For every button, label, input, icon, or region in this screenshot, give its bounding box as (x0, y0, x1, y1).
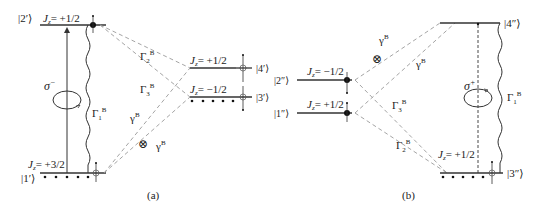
decay-wavy-line (498, 23, 502, 173)
gammaB-label-upper: γB (378, 33, 389, 46)
population-dots (442, 176, 485, 179)
ket-1pp: |1″⟩ (274, 108, 289, 119)
gammaB-label-lower: γB (415, 57, 426, 70)
jz-label: Jz= −1/2 (307, 65, 344, 79)
spin-dot (346, 92, 348, 94)
gammaB-label-lower: γB (155, 139, 166, 152)
spin-dot (95, 162, 97, 164)
spin-dot (92, 15, 94, 17)
spin-dot (242, 54, 244, 56)
ket-4pp: |4″⟩ (504, 17, 521, 29)
gamma2-label: Γ2B (140, 49, 155, 65)
sigma-plus-label: σ+ (464, 78, 475, 93)
caption-b: (b) (402, 189, 415, 202)
panel-a: |2′⟩ Jz= +1/2 |1′⟩ Jz= +3/2 Jz= +1/2 |4′… (18, 12, 269, 202)
decay-wavy-line (86, 25, 90, 173)
jz-label: Jz= −1/2 (190, 83, 227, 97)
cross-icon: ⊗ (138, 137, 148, 151)
spin-dot (346, 102, 348, 104)
gamma1-label: Γ1B (92, 106, 107, 122)
sigma-minus-label: σ− (44, 78, 55, 93)
gamma2-label: Γ2B (396, 138, 411, 154)
jz-label: Jz= +1/2 (43, 12, 80, 26)
jz-label: Jz= +1/2 (190, 54, 227, 68)
jz-label: Jz= +1/2 (307, 98, 344, 112)
spin-dot (242, 109, 244, 111)
caption-a: (a) (147, 189, 160, 202)
population-dots (191, 100, 235, 103)
ket-3pp: |3″⟩ (507, 167, 524, 179)
gamma3-label: Γ3B (392, 98, 407, 114)
arrow-tip (477, 23, 479, 25)
gamma3-label: Γ3B (140, 82, 155, 98)
jz-label: Jz= +1/2 (438, 148, 475, 162)
energy-level-diagram: |2′⟩ Jz= +1/2 |1′⟩ Jz= +3/2 Jz= +1/2 |4′… (0, 0, 541, 211)
ket-1p: |1′⟩ (21, 172, 35, 184)
ket-2p: |2′⟩ (18, 12, 32, 24)
gammaB-label-upper: γB (129, 111, 140, 124)
gamma1-label: Γ1B (507, 90, 522, 106)
cross-icon: ⊗ (372, 52, 382, 66)
panel-b: Jz= −1/2 |2″⟩ Jz= +1/2 |1″⟩ |4″⟩ |3″⟩ Jz… (274, 17, 524, 202)
spin-dot (491, 161, 493, 163)
ket-3p: |3′⟩ (256, 92, 269, 103)
ket-4p: |4′⟩ (256, 63, 269, 74)
ket-2pp: |2″⟩ (274, 75, 289, 86)
jz-label: Jz= +3/2 (28, 158, 65, 172)
population-dots (44, 176, 90, 179)
